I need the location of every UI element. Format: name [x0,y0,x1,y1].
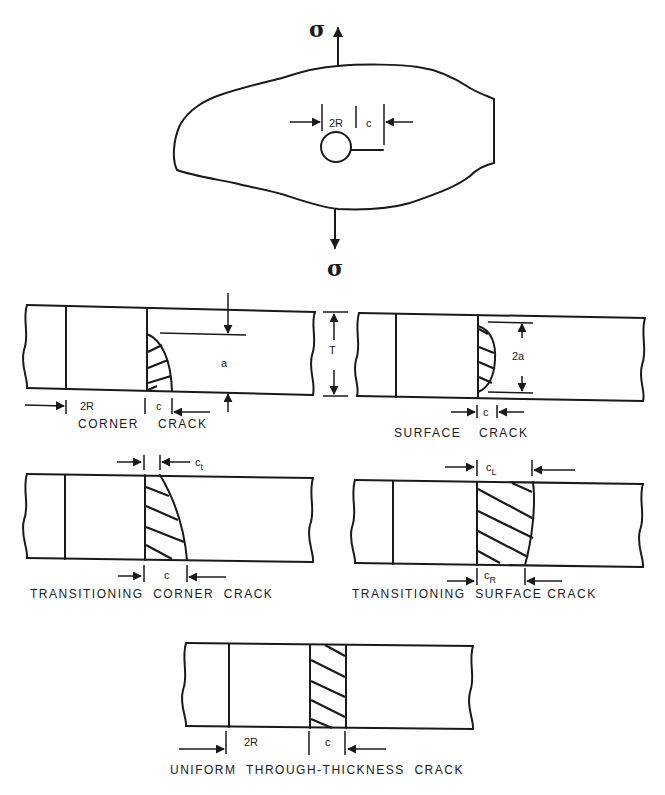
dim-bottom-crack-length: c [164,569,170,581]
dim-top-crack-length: ct [195,456,204,472]
panel-uniform-through-thickness-crack: 2R c UNIFORM THROUGH-THICKNESS CRACK [170,643,473,777]
panel-transitioning-surface-crack: cL cR TRANSITIONING SURFACE CRACK [351,460,643,601]
caption-corner-crack-right: CRACK [158,417,208,431]
caption-surface-crack-left: SURFACE [394,426,461,440]
dim-left-crack-length: cL [486,461,497,477]
caption-transitioning-corner-crack: TRANSITIONING CORNER CRACK [30,587,273,601]
plate-outline [174,65,494,210]
caption-transitioning-surface-crack: TRANSITIONING SURFACE CRACK [352,587,597,601]
dim-crack-depth: a [221,357,228,369]
dim-crack-length: c [156,400,162,412]
caption-uniform-through-thickness-crack: UNIFORM THROUGH-THICKNESS CRACK [170,763,464,777]
dim-crack-length: c [366,117,372,129]
dim-crack-length: c [483,406,489,418]
dim-hole-diameter: 2R [80,400,94,412]
panel-transitioning-corner-crack: ct c TRANSITIONING CORNER CRACK [23,455,313,601]
dim-crack-length: c [325,736,331,748]
dim-thickness: T [329,344,336,356]
panel-surface-crack: 2a c SURFACE CRACK [355,313,645,440]
load-sigma-top: σ [309,16,325,42]
load-sigma-bottom: σ [327,255,343,281]
caption-surface-crack-right: CRACK [479,426,529,440]
dim-hole-diameter: 2R [244,736,258,748]
dim-right-crack-length: cR [484,569,497,585]
hole [321,132,351,162]
panel-corner-crack: a T 2R c CORNER CRACK [23,293,348,431]
dim-hole-diameter: 2R [329,117,343,129]
loaded-plate-diagram: σ σ 2R c [174,16,494,281]
caption-corner-crack-left: CORNER [78,417,139,431]
dim-crack-depth: 2a [512,350,525,362]
